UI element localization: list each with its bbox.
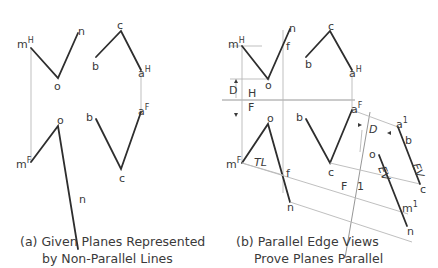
arrow-right-icon	[358, 123, 362, 127]
label-f-top: f	[286, 40, 291, 53]
label-fold-h: H	[248, 87, 256, 100]
label-c-front: c	[328, 166, 334, 179]
caption-a-line1: (a) Given Planes Represented	[20, 234, 205, 249]
caption-a-line2: by Non-Parallel Lines	[42, 251, 173, 266]
label-b-front: b	[86, 111, 93, 124]
arrow-down-icon	[234, 113, 238, 117]
label-c-top: c	[328, 20, 334, 33]
label-c-front: c	[119, 172, 125, 185]
label-fold-f2: F	[341, 180, 347, 193]
ref-line-o-aux	[360, 130, 362, 152]
label-o-front: o	[267, 112, 274, 125]
label-c-top: c	[117, 19, 123, 32]
label-true-length: TL	[254, 156, 267, 169]
label-b-front: b	[296, 111, 303, 124]
label-b-top: b	[92, 60, 99, 73]
label-n-top: n	[289, 22, 296, 35]
label-n1: n	[407, 225, 414, 238]
label-o-top: o	[265, 79, 272, 92]
label-m-f: mF	[16, 156, 32, 171]
label-m-f: mF	[226, 156, 242, 171]
line-mon-front	[31, 126, 78, 249]
label-a-f: aF	[138, 103, 150, 118]
label-m1: m1	[402, 200, 418, 215]
arrow-left-icon	[387, 131, 391, 135]
parallel-planes-diagram: mH n o b c aH aF b o mF c n	[0, 0, 438, 268]
line-bca-front	[306, 110, 352, 163]
label-n-top: n	[78, 25, 85, 38]
label-a-h: aH	[138, 65, 151, 80]
label-ev-mon: EV	[375, 164, 393, 184]
line-bca-front	[96, 112, 141, 169]
label-o1: o	[369, 148, 376, 161]
label-o-top: o	[54, 80, 61, 93]
label-fold-f: F	[248, 101, 254, 114]
label-o-front: o	[57, 114, 64, 127]
label-ev-abc: EV	[409, 161, 427, 181]
panel-b: mH n f o b c aH D H F o b aF mF TL f c n…	[222, 20, 427, 258]
label-c1: c	[420, 183, 426, 196]
label-d-right: D	[369, 123, 377, 136]
arrow-up-icon	[234, 79, 238, 83]
label-n-front: n	[287, 201, 294, 214]
caption-b-line1: (b) Parallel Edge Views	[236, 234, 379, 249]
label-b1: b	[405, 134, 412, 147]
panel-a: mH n o b c aH aF b o mF c n	[16, 19, 151, 249]
label-a-h: aH	[349, 65, 362, 80]
line-bca-top	[306, 31, 352, 70]
label-a1: a1	[396, 116, 408, 131]
label-fold-1: 1	[357, 180, 364, 193]
label-n-front: n	[79, 193, 86, 206]
caption-b-line2: Prove Planes Parallel	[254, 251, 383, 266]
line-bca-top	[96, 31, 141, 70]
label-d-left: D	[229, 84, 237, 97]
label-b-top: b	[305, 58, 312, 71]
line-mon-top	[31, 33, 78, 78]
